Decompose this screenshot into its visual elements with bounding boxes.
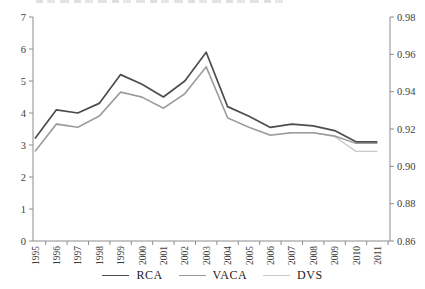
svg-text:0.90: 0.90 xyxy=(397,161,415,172)
svg-text:0: 0 xyxy=(21,236,26,247)
svg-text:2006: 2006 xyxy=(266,246,276,265)
svg-text:2010: 2010 xyxy=(352,246,362,265)
legend-item-dvs: DVS xyxy=(263,268,323,283)
dvs-line-swatch-icon xyxy=(263,275,290,276)
legend-label-rca: RCA xyxy=(136,268,162,283)
chart-legend: RCA VACA DVS xyxy=(0,268,425,283)
svg-text:1998: 1998 xyxy=(95,246,105,265)
svg-text:6: 6 xyxy=(21,44,26,55)
legend-item-vaca: VACA xyxy=(179,268,247,283)
svg-text:2004: 2004 xyxy=(223,246,233,265)
svg-text:0.96: 0.96 xyxy=(397,49,415,60)
svg-text:5: 5 xyxy=(21,76,26,87)
svg-text:2002: 2002 xyxy=(180,246,190,265)
svg-text:2003: 2003 xyxy=(202,246,212,265)
rca-line-swatch-icon xyxy=(102,275,129,276)
svg-text:2005: 2005 xyxy=(245,246,255,265)
svg-text:2007: 2007 xyxy=(287,246,297,265)
svg-text:1: 1 xyxy=(21,204,26,215)
svg-text:0.98: 0.98 xyxy=(397,12,415,23)
svg-text:4: 4 xyxy=(21,108,27,119)
vaca-line-swatch-icon xyxy=(179,275,206,276)
legend-label-dvs: DVS xyxy=(297,268,323,283)
cropped-text-remnant xyxy=(36,0,284,3)
svg-text:2: 2 xyxy=(21,172,26,183)
chart-figure: 012345670.860.880.900.920.940.960.981995… xyxy=(0,0,425,289)
svg-text:2001: 2001 xyxy=(159,246,169,265)
svg-text:0.94: 0.94 xyxy=(397,86,416,97)
svg-text:0.92: 0.92 xyxy=(397,124,415,135)
svg-text:2011: 2011 xyxy=(373,246,383,265)
svg-text:2000: 2000 xyxy=(138,246,148,265)
svg-text:7: 7 xyxy=(21,12,26,23)
svg-text:1997: 1997 xyxy=(73,246,83,265)
svg-text:2008: 2008 xyxy=(309,246,319,265)
svg-text:1996: 1996 xyxy=(52,246,62,265)
svg-text:0.88: 0.88 xyxy=(397,198,415,209)
svg-text:1999: 1999 xyxy=(116,246,126,265)
svg-text:1995: 1995 xyxy=(31,246,41,265)
legend-label-vaca: VACA xyxy=(213,268,247,283)
svg-text:0.86: 0.86 xyxy=(397,236,415,247)
svg-text:3: 3 xyxy=(21,140,26,151)
svg-text:2009: 2009 xyxy=(330,246,340,265)
legend-item-rca: RCA xyxy=(102,268,162,283)
chart-canvas: 012345670.860.880.900.920.940.960.981995… xyxy=(0,0,425,289)
